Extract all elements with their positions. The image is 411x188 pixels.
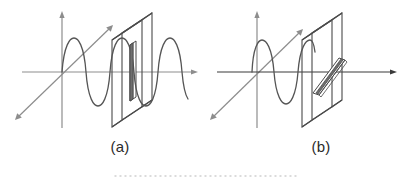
panel-a <box>15 11 198 128</box>
panel-b <box>210 11 397 128</box>
physics-diagram-svg <box>0 0 411 188</box>
panel-b-caption: (b) <box>291 138 351 155</box>
panel-a-slit-edge-overlay <box>130 43 133 101</box>
figure-root: (a) (b) <box>0 0 411 188</box>
panel-a-caption: (a) <box>90 138 150 155</box>
panel-b-y-axis-arrow-icon <box>254 11 259 128</box>
panel-b-x-axis-arrow-icon <box>217 69 397 74</box>
